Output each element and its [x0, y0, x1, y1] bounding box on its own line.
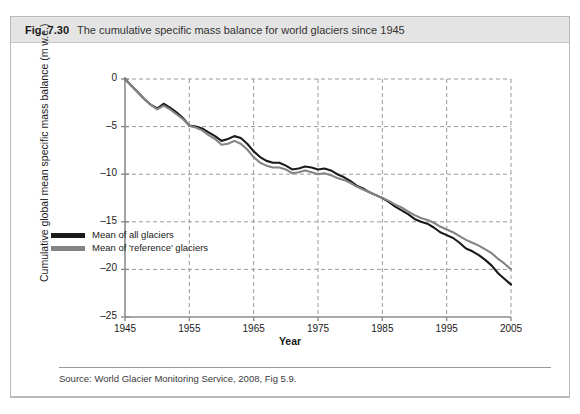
y-tick-label: –15: [91, 215, 117, 226]
y-axis-title: Cumulative global mean specific mass bal…: [38, 32, 50, 282]
y-tick-label: –20: [91, 262, 117, 273]
y-tick-label: –5: [91, 120, 117, 131]
gridlines: [125, 79, 511, 317]
legend-label-reference-glaciers: Mean of 'reference' glaciers: [92, 242, 208, 253]
legend-label-all-glaciers: Mean of all glaciers: [92, 229, 174, 240]
source-divider: [59, 367, 551, 368]
x-tick-label: 1965: [234, 323, 274, 334]
x-tick-label: 1955: [169, 323, 209, 334]
y-tick-label: –10: [91, 167, 117, 178]
x-tick-label: 1945: [105, 323, 145, 334]
figure-container: Fig. 7.30 The cumulative specific mass b…: [10, 16, 570, 398]
bottom-rule: [11, 396, 569, 397]
source-text: Source: World Glacier Monitoring Service…: [59, 373, 296, 384]
x-tick-label: 1985: [362, 323, 402, 334]
figure-caption-text: The cumulative specific mass balance for…: [77, 24, 405, 36]
chart-legend: Mean of all glaciers Mean of 'reference'…: [51, 229, 208, 255]
figure-caption-bar: Fig. 7.30 The cumulative specific mass b…: [11, 17, 569, 43]
legend-swatch-all-glaciers: [51, 233, 85, 238]
x-axis-title: Year: [11, 335, 569, 347]
legend-item-all-glaciers: Mean of all glaciers: [51, 229, 208, 240]
legend-swatch-reference-glaciers: [51, 246, 85, 251]
legend-item-reference-glaciers: Mean of 'reference' glaciers: [51, 242, 208, 253]
plot-region: Cumulative global mean specific mass bal…: [11, 43, 569, 363]
y-tick-label: –25: [91, 310, 117, 321]
x-tick-label: 1975: [298, 323, 338, 334]
axes: [125, 77, 511, 317]
x-tick-label: 1995: [427, 323, 467, 334]
y-tick-label: 0: [91, 72, 117, 83]
x-tick-label: 2005: [491, 323, 531, 334]
